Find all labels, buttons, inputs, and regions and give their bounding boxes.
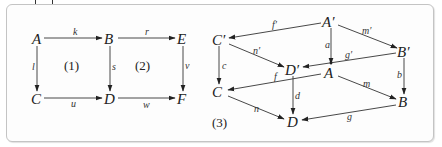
label-f-prime: f′ <box>272 19 278 30</box>
label-g: g <box>347 111 352 122</box>
label-c: c <box>222 60 227 71</box>
node-A-prime: A′ <box>321 14 335 30</box>
diagram-right: A′ B′ C′ D′ A B C D f′ m′ n′ g′ a b c d … <box>212 14 410 130</box>
node-E: E <box>176 31 186 47</box>
label-u: u <box>71 98 76 109</box>
region-label-1: (1) <box>64 58 79 73</box>
commutative-diagrams: A B E C D F k r l s v u w (1) (2) <box>0 0 442 147</box>
node-D: D <box>286 114 298 130</box>
label-l: l <box>32 61 35 72</box>
node-A: A <box>323 65 334 81</box>
label-n: n <box>254 103 259 114</box>
region-label-2: (2) <box>135 58 150 73</box>
label-w: w <box>143 99 150 110</box>
diagram-left: A B E C D F k r l s v u w (1) (2) <box>31 26 190 110</box>
crossing-dot <box>330 62 333 65</box>
node-F: F <box>176 91 187 107</box>
node-A: A <box>31 31 42 47</box>
label-r: r <box>145 26 149 37</box>
node-B: B <box>104 31 113 47</box>
label-g-prime: g′ <box>345 49 353 60</box>
region-label-3: (3) <box>212 115 227 130</box>
label-v: v <box>185 60 190 71</box>
node-C: C <box>31 91 42 107</box>
node-D: D <box>103 91 115 107</box>
label-d: d <box>295 90 301 101</box>
label-k: k <box>73 26 78 37</box>
label-s: s <box>112 61 116 72</box>
label-m: m <box>363 78 370 89</box>
label-n-prime: n′ <box>253 45 261 56</box>
node-B-prime: B′ <box>397 44 410 60</box>
label-a: a <box>325 39 330 50</box>
node-B: B <box>398 94 407 110</box>
label-f: f <box>274 71 278 82</box>
label-m-prime: m′ <box>362 25 372 36</box>
node-C-prime: C′ <box>212 32 226 48</box>
label-b: b <box>397 69 402 80</box>
node-D-prime: D′ <box>284 62 300 78</box>
node-C: C <box>212 84 223 100</box>
